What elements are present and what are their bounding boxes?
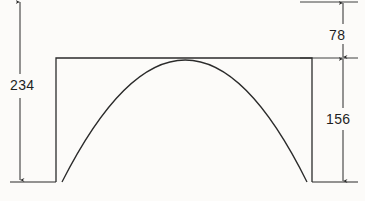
- diagram-canvas: 234 78 156: [0, 0, 365, 201]
- dimension-label-overall-height: 234: [8, 78, 37, 92]
- main-geometry: [10, 58, 358, 182]
- dimension-label-upper-height: 78: [327, 28, 347, 42]
- parabola-curve: [62, 60, 307, 182]
- rectangle-outline: [56, 58, 312, 182]
- dimension-label-lower-height: 156: [324, 112, 353, 126]
- diagram-svg: [0, 0, 365, 201]
